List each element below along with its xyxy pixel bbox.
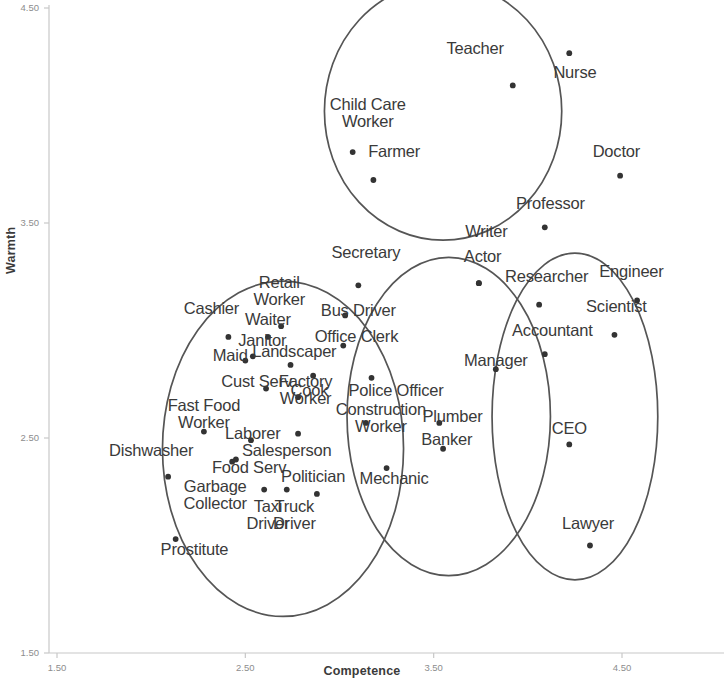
point-label: Mechanic	[360, 470, 429, 487]
y-tick-label: 4.50	[5, 2, 39, 13]
point-label: Nurse	[553, 64, 596, 81]
point-label: Prostitute	[161, 541, 229, 558]
y-axis-title: Warmth	[4, 256, 18, 274]
point-label: ConstructionWorker	[336, 401, 426, 435]
point-label: Farmer	[368, 143, 420, 160]
point-labels-layer: TeacherNurseChild CareWorkerFarmerDoctor…	[0, 0, 724, 690]
scatter-plot-figure: Teacher (3.92, 4.14)Nurse (4.22, 4.29)Ch…	[0, 0, 724, 690]
point-label: Dishwasher	[109, 442, 193, 459]
point-label: Doctor	[593, 143, 640, 160]
point-label: Police Officer	[348, 382, 443, 399]
point-label: Professor	[516, 195, 585, 212]
point-label: Food Serv	[212, 459, 286, 476]
point-label: Secretary	[331, 244, 400, 261]
point-label: Laborer	[225, 425, 280, 442]
point-label: FactoryWorker	[279, 373, 333, 407]
point-label: Actor	[464, 248, 502, 265]
point-label: Engineer	[599, 263, 663, 280]
point-label: GarbageCollector	[184, 478, 247, 512]
point-label: CEO	[552, 420, 587, 437]
point-label: Child CareWorker	[330, 96, 406, 130]
point-label: Plumber	[422, 408, 482, 425]
point-label: Bus Driver	[321, 302, 396, 319]
point-label: Scientist	[586, 298, 647, 315]
point-label: Landscaper	[252, 343, 336, 360]
point-label: Teacher	[446, 40, 503, 57]
y-tick-label: 2.50	[5, 432, 39, 443]
point-label: Manager	[464, 352, 528, 369]
point-label: RetailWorker	[253, 274, 305, 308]
point-label: Cashier	[184, 300, 239, 317]
point-label: Politician	[281, 468, 345, 485]
y-tick-label: 1.50	[5, 647, 39, 658]
x-axis-title: Competence	[0, 664, 724, 678]
point-label: TruckDriver	[273, 498, 316, 532]
point-label: Waiter	[245, 311, 291, 328]
point-label: Researcher	[505, 268, 588, 285]
point-label: Accountant	[512, 322, 593, 339]
point-label: Salesperson	[242, 442, 332, 459]
point-label: Lawyer	[562, 515, 614, 532]
point-label: Banker	[421, 431, 472, 448]
point-label: Maid	[213, 347, 248, 364]
point-label: Writer	[465, 223, 508, 240]
